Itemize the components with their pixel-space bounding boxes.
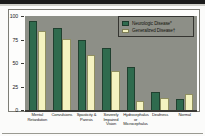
bar-generalized: [136, 101, 144, 110]
y-axis-tick-label: 75: [0, 37, 18, 43]
y-axis-tick: [21, 63, 24, 64]
y-axis-tick: [21, 40, 24, 41]
bar-neurologic: [102, 48, 110, 110]
bar-generalized: [62, 39, 70, 110]
bar-neurologic: [78, 40, 86, 111]
x-axis-tick-label: Mental Retardation: [25, 113, 50, 122]
bar-generalized: [111, 71, 119, 110]
y-axis-tick: [21, 110, 24, 111]
chart-legend: Neurologic Disease* Generalized Disease†: [118, 16, 194, 37]
bar-neurologic: [151, 92, 159, 110]
x-axis-tick-label: Normal: [172, 113, 197, 118]
bar-neurologic: [176, 99, 184, 110]
x-axis-tick-label: Severely Impaired Vision: [99, 113, 124, 127]
bar-generalized: [87, 55, 95, 110]
bar-neurologic: [29, 21, 37, 110]
bar-generalized: [38, 31, 46, 110]
y-axis-tick-label: 25: [0, 84, 18, 90]
x-axis-labels: Mental RetardationConvulsionsSpasticity …: [25, 113, 197, 135]
x-axis-tick-label: Hydrocephalus or Microcephalus: [123, 113, 148, 127]
legend-swatch-icon: [122, 21, 129, 26]
legend-label: Generalized Disease†: [132, 28, 175, 33]
legend-label: Neurologic Disease*: [132, 21, 172, 26]
y-axis-tick-label: 50: [0, 60, 18, 66]
y-axis-tick: [21, 87, 24, 88]
figure-container: 0255075100 Mental RetardationConvulsions…: [0, 0, 205, 136]
legend-swatch-icon: [122, 29, 129, 34]
x-axis-tick-label: Convulsions: [50, 113, 75, 118]
x-axis-tick-label: Deafness: [148, 113, 173, 118]
legend-item-generalized: Generalized Disease†: [122, 27, 190, 35]
y-axis-tick-label: 0: [0, 107, 18, 113]
legend-item-neurologic: Neurologic Disease*: [122, 20, 190, 28]
x-axis-tick-label: Spasticity & Paresis: [74, 113, 99, 122]
bar-generalized: [185, 94, 193, 110]
y-axis-tick: [21, 16, 24, 17]
bottom-border-rule: [2, 133, 203, 134]
y-axis-tick-label: 100: [0, 13, 18, 19]
bar-generalized: [160, 98, 168, 110]
top-border-rule-secondary: [0, 4, 205, 6]
bar-neurologic: [127, 67, 135, 110]
bar-neurologic: [53, 28, 61, 110]
